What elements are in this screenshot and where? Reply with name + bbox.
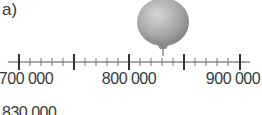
number-line <box>0 0 262 115</box>
tick-label-700000: 700 000 <box>0 70 53 88</box>
answer-text-cut-off: 830 000 <box>2 104 56 115</box>
tick-label-900000: 900 000 <box>206 70 260 88</box>
tick-label-800000: 800 000 <box>102 70 156 88</box>
